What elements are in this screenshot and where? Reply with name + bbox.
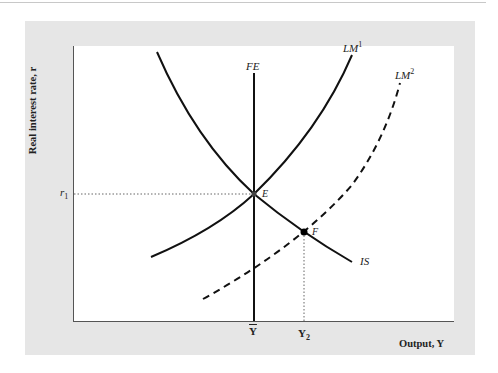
point-e-text: E	[262, 188, 268, 199]
x-axis-label: Output, Y	[399, 338, 444, 349]
y2-tick-text: Y	[298, 327, 306, 339]
y2-tick-sub: 2	[306, 333, 310, 342]
lm2-label-text: LM	[395, 69, 410, 81]
y2-tick-label: Y2	[298, 327, 310, 342]
r1-tick-sub: 1	[64, 192, 68, 201]
point-e-marker	[252, 192, 257, 197]
point-f-text: F	[312, 226, 318, 237]
fe-label: FE	[246, 60, 259, 72]
is-label: IS	[360, 255, 369, 267]
y-axis-label: Real interest rate, r	[27, 51, 38, 171]
ybar-tick-text: Y	[249, 325, 257, 337]
lm2-curve	[203, 83, 400, 299]
lm1-label: LM1	[343, 40, 362, 54]
lm2-label: LM2	[395, 67, 414, 81]
lm1-label-sup: 1	[358, 40, 362, 49]
ybar-tick-label: Y	[249, 325, 257, 337]
r1-tick-label: r1	[60, 186, 68, 201]
lm2-label-sup: 2	[410, 67, 414, 76]
lm1-curve	[151, 55, 352, 257]
lm1-label-text: LM	[343, 42, 358, 54]
chart-svg	[0, 0, 498, 373]
fe-label-text: FE	[246, 60, 259, 72]
point-f-label: F	[312, 226, 318, 237]
is-label-text: IS	[360, 255, 369, 267]
point-e-label: E	[262, 188, 268, 199]
point-f-marker	[301, 229, 308, 236]
